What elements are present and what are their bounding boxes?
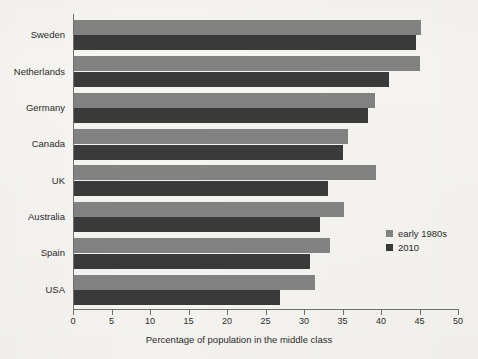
x-axis-tick-15 xyxy=(189,310,190,315)
bar-uk-2010 xyxy=(73,181,328,196)
bar-germany-2010 xyxy=(73,108,368,123)
x-axis-tick-label-25: 25 xyxy=(260,316,270,326)
legend-entry-early-1980s: early 1980s xyxy=(386,228,447,239)
y-axis-label-spain: Spain xyxy=(0,247,65,258)
x-axis-tick-50 xyxy=(458,310,459,315)
legend-label: 2010 xyxy=(398,242,419,253)
x-axis-tick-label-20: 20 xyxy=(222,316,232,326)
bar-chart: SwedenNetherlandsGermanyCanadaUKAustrali… xyxy=(0,0,478,359)
bar-australia-2010 xyxy=(73,217,320,232)
bar-sweden-early-1980s xyxy=(73,20,421,35)
bar-spain-2010 xyxy=(73,254,310,269)
bar-netherlands-2010 xyxy=(73,72,389,87)
legend-swatch-icon xyxy=(386,230,393,237)
x-axis-tick-label-30: 30 xyxy=(299,316,309,326)
bar-australia-early-1980s xyxy=(73,202,344,217)
x-axis-tick-label-50: 50 xyxy=(453,316,463,326)
x-axis-tick-5 xyxy=(112,310,113,315)
plot-area xyxy=(73,17,458,308)
chart-legend: early 1980s2010 xyxy=(386,228,447,256)
legend-swatch-icon xyxy=(386,244,393,251)
x-axis-tick-label-5: 5 xyxy=(109,316,114,326)
x-axis-tick-label-35: 35 xyxy=(337,316,347,326)
y-axis-label-germany: Germany xyxy=(0,102,65,113)
legend-label: early 1980s xyxy=(398,228,447,239)
x-axis-tick-40 xyxy=(381,310,382,315)
x-axis-tick-label-15: 15 xyxy=(183,316,193,326)
y-axis-label-australia: Australia xyxy=(0,211,65,222)
x-axis-tick-10 xyxy=(150,310,151,315)
x-axis-tick-label-0: 0 xyxy=(70,316,75,326)
bar-germany-early-1980s xyxy=(73,93,375,108)
y-axis-label-canada: Canada xyxy=(0,138,65,149)
bar-uk-early-1980s xyxy=(73,165,376,180)
x-axis-tick-label-10: 10 xyxy=(145,316,155,326)
y-axis-label-netherlands: Netherlands xyxy=(0,66,65,77)
x-axis-tick-0 xyxy=(73,310,74,315)
x-axis-tick-25 xyxy=(266,310,267,315)
bar-sweden-2010 xyxy=(73,35,416,50)
x-axis-tick-35 xyxy=(343,310,344,315)
legend-entry-2010: 2010 xyxy=(386,242,447,253)
x-axis-title: Percentage of population in the middle c… xyxy=(0,334,478,345)
y-axis-label-uk: UK xyxy=(0,175,65,186)
bar-usa-early-1980s xyxy=(73,275,315,290)
x-axis-tick-45 xyxy=(420,310,421,315)
y-axis-line xyxy=(73,14,74,310)
x-axis-tick-30 xyxy=(304,310,305,315)
x-axis-tick-label-45: 45 xyxy=(414,316,424,326)
bar-canada-2010 xyxy=(73,145,343,160)
bar-spain-early-1980s xyxy=(73,238,330,253)
bar-usa-2010 xyxy=(73,290,280,305)
y-axis-label-sweden: Sweden xyxy=(0,29,65,40)
y-axis-label-usa: USA xyxy=(0,284,65,295)
x-axis-tick-label-40: 40 xyxy=(376,316,386,326)
bar-netherlands-early-1980s xyxy=(73,56,420,71)
x-axis-tick-20 xyxy=(227,310,228,315)
bar-canada-early-1980s xyxy=(73,129,348,144)
